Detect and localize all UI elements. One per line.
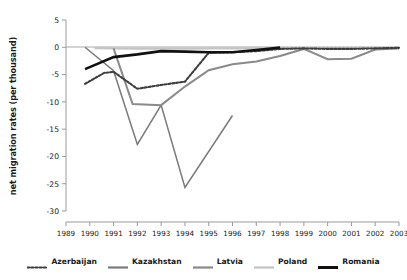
x-tick-label: 1991 xyxy=(104,229,122,238)
legend-swatch-poland-icon xyxy=(254,257,274,266)
legend-item-kazakhstan[interactable]: Kazakhstan xyxy=(108,257,182,266)
legend-label: Poland xyxy=(278,257,307,266)
legend-swatch-romania-icon xyxy=(318,257,338,266)
y-tick-label: -20 xyxy=(47,152,60,161)
y-tick-label: 0 xyxy=(54,43,59,52)
chart-legend: AzerbaijanKazakhstanLatviaPolandRomania xyxy=(0,250,407,272)
x-tick-label: 1995 xyxy=(200,229,218,238)
y-tick-label: -5 xyxy=(51,70,59,79)
y-tick-label: 5 xyxy=(54,16,59,25)
series-line-latvia xyxy=(114,48,399,105)
x-tick-label: 2002 xyxy=(366,229,384,238)
x-tick-label: 1996 xyxy=(223,229,242,238)
x-tick-label: 1997 xyxy=(247,229,265,238)
x-axis-ticks: 1989199019911992199319941995199619971998… xyxy=(57,222,407,238)
y-tick-label: -25 xyxy=(47,180,60,189)
x-tick-label: 1992 xyxy=(128,229,146,238)
x-tick-label: 1993 xyxy=(152,229,170,238)
legend-item-azerbaijan[interactable]: Azerbaijan xyxy=(27,257,97,266)
x-tick-label: 1994 xyxy=(176,229,195,238)
y-tick-label: -30 xyxy=(47,207,60,216)
data-series-layer xyxy=(85,47,399,187)
x-tick-label: 1999 xyxy=(295,229,314,238)
chart-plot-area: 50-5-10-15-20-25-30 19891990199119921993… xyxy=(0,0,407,250)
legend-label: Romania xyxy=(342,257,379,266)
x-tick-label: 2000 xyxy=(318,229,337,238)
legend-swatch-kazakhstan-icon xyxy=(108,257,128,266)
series-line-kazakhstan xyxy=(85,47,232,187)
migration-rates-chart-figure: net migration rates (per thousand) 50-5-… xyxy=(0,0,407,280)
legend-item-latvia[interactable]: Latvia xyxy=(193,257,243,266)
legend-item-poland[interactable]: Poland xyxy=(254,257,307,266)
legend-item-romania[interactable]: Romania xyxy=(318,257,379,266)
legend-swatch-latvia-icon xyxy=(193,257,213,266)
y-tick-label: -15 xyxy=(47,125,60,134)
y-axis-ticks: 50-5-10-15-20-25-30 xyxy=(47,16,66,216)
y-tick-label: -10 xyxy=(47,98,60,107)
x-tick-label: 1989 xyxy=(57,229,76,238)
legend-label: Azerbaijan xyxy=(51,257,97,266)
legend-label: Kazakhstan xyxy=(132,257,182,266)
x-tick-label: 1990 xyxy=(81,229,100,238)
legend-label: Latvia xyxy=(217,257,243,266)
legend-swatch-azerbaijan-icon xyxy=(27,257,47,266)
x-tick-label: 2001 xyxy=(342,229,360,238)
x-tick-label: 1998 xyxy=(271,229,290,238)
x-tick-label: 2003 xyxy=(390,229,407,238)
